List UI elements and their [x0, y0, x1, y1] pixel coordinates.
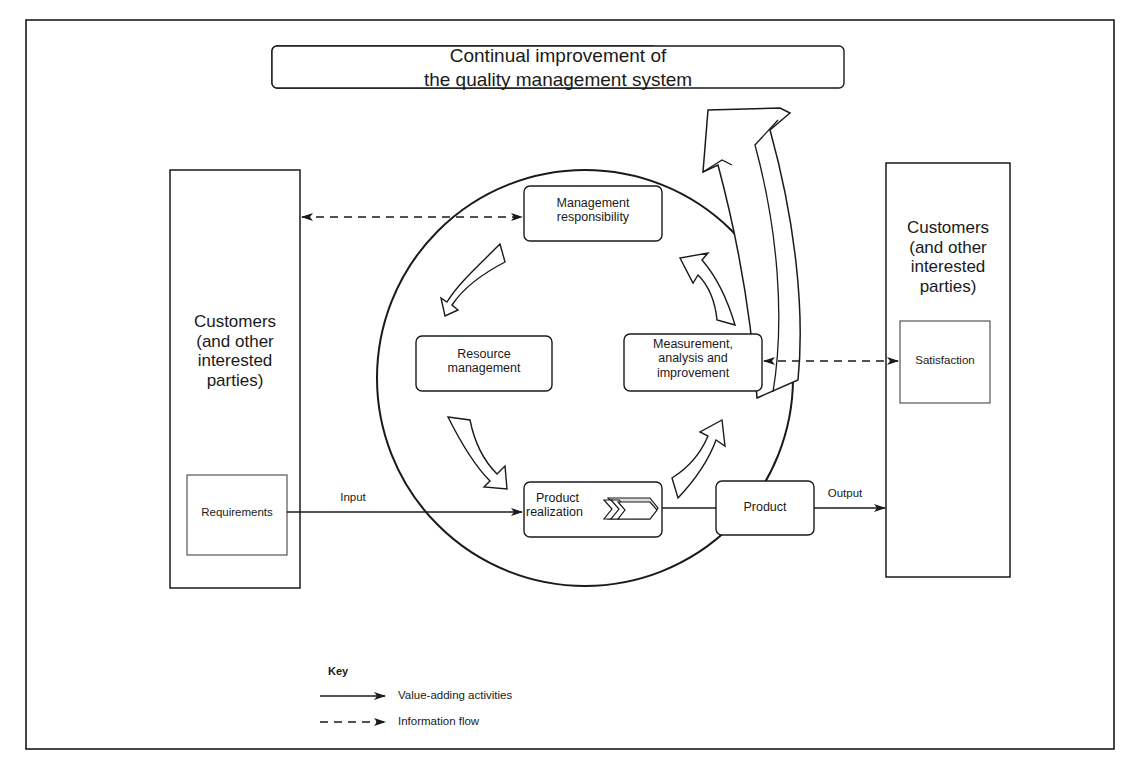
- measurement-line-2: analysis and: [624, 351, 762, 365]
- mgmt-line-1: Management: [524, 196, 662, 210]
- requirements-label: Requirements: [187, 506, 287, 519]
- resource-line-1: Resource: [416, 347, 552, 361]
- key-item-information-flow: Information flow: [398, 715, 479, 728]
- left-party-line-3: interested: [170, 351, 300, 371]
- left-party-line-4: parties): [170, 371, 300, 391]
- resource-management-label: Resource management: [416, 347, 552, 376]
- measurement-line-1: Measurement,: [624, 337, 762, 351]
- left-party-label: Customers (and other interested parties): [170, 312, 300, 390]
- measurement-label: Measurement, analysis and improvement: [624, 337, 762, 380]
- title-text: Continual improvement of the quality man…: [272, 44, 844, 92]
- mgmt-line-2: responsibility: [524, 210, 662, 224]
- key-item-value-adding: Value-adding activities: [398, 689, 512, 702]
- left-party-line-2: (and other: [170, 332, 300, 352]
- product-label: Product: [716, 500, 814, 514]
- title-line-1: Continual improvement of: [272, 44, 844, 68]
- satisfaction-label: Satisfaction: [900, 354, 990, 367]
- resource-line-2: management: [416, 361, 552, 375]
- right-party-line-4: parties): [886, 277, 1010, 297]
- right-party-line-2: (and other: [886, 238, 1010, 258]
- measurement-line-3: improvement: [624, 366, 762, 380]
- right-party-line-1: Customers: [886, 218, 1010, 238]
- right-party-label: Customers (and other interested parties): [886, 218, 1010, 296]
- realization-line-2: realization: [526, 505, 606, 519]
- key-title: Key: [328, 665, 348, 678]
- left-party-line-1: Customers: [170, 312, 300, 332]
- realization-line-1: Product: [526, 491, 606, 505]
- output-label: Output: [820, 487, 870, 500]
- title-line-2: the quality management system: [272, 68, 844, 92]
- product-realization-label: Product realization: [526, 491, 606, 520]
- input-label: Input: [328, 491, 378, 504]
- management-responsibility-label: Management responsibility: [524, 196, 662, 225]
- right-party-line-3: interested: [886, 257, 1010, 277]
- chevron-process-icon: [604, 498, 658, 519]
